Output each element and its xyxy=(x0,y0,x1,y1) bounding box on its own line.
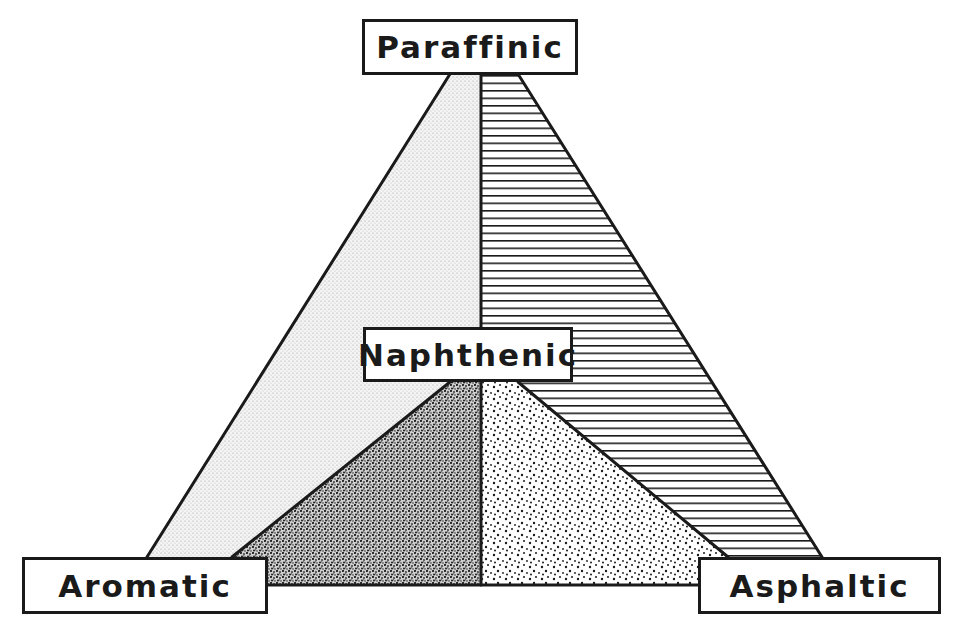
label-asphaltic: Asphaltic xyxy=(698,557,941,614)
diagram-canvas xyxy=(0,0,963,639)
label-naphthenic: Naphthenic xyxy=(363,327,573,382)
label-paraffinic: Paraffinic xyxy=(362,19,578,75)
label-aromatic: Aromatic xyxy=(22,557,268,614)
